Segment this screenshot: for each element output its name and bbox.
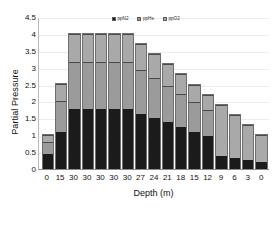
bar-stack	[229, 114, 241, 169]
bar-segment-ppo2	[189, 85, 199, 103]
x-axis-tick: 0	[255, 172, 268, 186]
x-axis-tick-labels: 01530303030302724211815129630	[38, 172, 269, 186]
legend-item-ppn2: ppN2	[112, 16, 128, 21]
x-axis-tick: 0	[40, 172, 53, 186]
y-axis-tick: 0	[14, 166, 36, 174]
bar-segment-pphe	[149, 78, 159, 118]
legend-label: ppN2	[118, 16, 129, 21]
bar-slot	[255, 18, 268, 169]
bar-segment-ppn2	[96, 109, 106, 169]
bar-slot	[188, 18, 201, 169]
bar-stack	[175, 73, 187, 169]
bar-segment-ppn2	[83, 109, 93, 169]
bar-segment-ppo2	[83, 34, 93, 62]
x-axis-tick: 30	[107, 172, 120, 186]
bar-segment-pphe	[163, 86, 173, 122]
bar-slot	[135, 18, 148, 169]
bar-segment-pphe	[56, 101, 66, 131]
x-axis-tick: 30	[80, 172, 93, 186]
x-axis-tick: 21	[161, 172, 174, 186]
bar-segment-ppo2	[163, 64, 173, 86]
plot-area	[38, 18, 269, 170]
bar-segment-ppn2	[69, 109, 79, 169]
legend-swatch-icon	[163, 17, 167, 21]
x-axis-tick: 30	[120, 172, 133, 186]
bar-segment-pphe	[123, 62, 133, 109]
bar-segment-ppn2	[256, 162, 266, 169]
bar-stack	[162, 63, 174, 169]
bar-segment-ppn2	[216, 156, 226, 169]
bar-segment-ppo2	[256, 135, 266, 162]
bar-segment-pphe	[109, 62, 119, 109]
bar-slot	[241, 18, 254, 169]
bar-segment-ppn2	[243, 160, 253, 169]
bar-stack	[108, 33, 120, 169]
bar-segment-ppn2	[56, 132, 66, 169]
chart-legend: ppN2ppHeppO2	[112, 16, 180, 21]
bar-segment-pphe	[136, 70, 146, 114]
y-axis-tick: 1	[14, 132, 36, 140]
x-axis-tick: 15	[187, 172, 200, 186]
bar-segment-ppn2	[189, 132, 199, 169]
bar-slot	[201, 18, 214, 169]
partial-pressure-bar-chart: Partial Pressure 00.511.522.533.544.5 01…	[0, 0, 278, 225]
bar-segment-ppn2	[109, 109, 119, 169]
bar-segment-pphe	[203, 110, 213, 136]
bar-segment-ppo2	[149, 54, 159, 78]
bar-segment-ppo2	[243, 125, 253, 160]
bar-segment-ppo2	[123, 34, 133, 62]
x-axis-tick: 15	[53, 172, 66, 186]
bar-segment-pphe	[96, 62, 106, 109]
x-axis-tick: 30	[67, 172, 80, 186]
y-axis-tick: 3.5	[14, 48, 36, 56]
bar-segment-ppn2	[149, 118, 159, 169]
bar-segment-ppo2	[230, 115, 240, 158]
bar-slot	[228, 18, 241, 169]
bar-stack	[68, 33, 80, 169]
bar-segment-ppn2	[123, 109, 133, 169]
bar-segment-ppo2	[96, 34, 106, 62]
bar-slot	[94, 18, 107, 169]
bar-segment-ppo2	[136, 44, 146, 70]
legend-label: ppHe	[143, 16, 154, 21]
bar-stack	[95, 33, 107, 169]
bar-series-group	[39, 18, 269, 169]
y-axis-tick: 2	[14, 98, 36, 106]
bar-stack	[202, 94, 214, 169]
bar-slot	[68, 18, 81, 169]
y-axis-tick-labels: 00.511.522.533.544.5	[14, 18, 36, 170]
x-axis-tick: 9	[214, 172, 227, 186]
bar-stack	[135, 43, 147, 169]
bar-slot	[121, 18, 134, 169]
x-axis-tick: 24	[147, 172, 160, 186]
x-axis-tick: 18	[174, 172, 187, 186]
y-axis-tick: 3	[14, 65, 36, 73]
bar-segment-ppn2	[203, 136, 213, 169]
bar-stack	[215, 104, 227, 169]
bar-slot	[175, 18, 188, 169]
bar-stack	[255, 134, 267, 169]
bar-segment-ppo2	[43, 135, 53, 142]
bar-segment-ppo2	[69, 34, 79, 62]
legend-item-ppo2: ppO2	[163, 16, 180, 21]
bar-segment-ppo2	[176, 74, 186, 94]
bar-segment-pphe	[43, 142, 53, 153]
bar-slot	[41, 18, 54, 169]
bar-segment-ppn2	[176, 127, 186, 169]
legend-item-pphe: ppHe	[137, 16, 153, 21]
bar-segment-pphe	[189, 102, 199, 131]
bar-slot	[81, 18, 94, 169]
y-axis-tick: 4.5	[14, 14, 36, 22]
bar-segment-ppn2	[230, 158, 240, 169]
y-axis-tick: 0.5	[14, 149, 36, 157]
bar-stack	[148, 53, 160, 169]
legend-swatch-icon	[112, 17, 116, 21]
x-axis-tick: 12	[201, 172, 214, 186]
bar-segment-ppn2	[136, 114, 146, 169]
y-axis-tick: 4	[14, 31, 36, 39]
y-axis-tick: 1.5	[14, 115, 36, 123]
x-axis-tick: 27	[134, 172, 147, 186]
bar-stack	[242, 124, 254, 169]
bar-segment-ppo2	[56, 84, 66, 102]
x-axis-title: Depth (m)	[38, 188, 269, 198]
